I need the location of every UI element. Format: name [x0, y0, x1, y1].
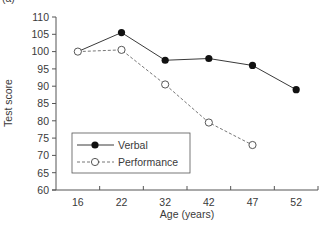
y-tick-label: 65: [37, 167, 49, 179]
data-point-performance: [118, 46, 125, 53]
y-tick-label: 105: [31, 28, 49, 40]
series-line-performance: [78, 50, 253, 145]
x-tick-label: 22: [116, 196, 128, 208]
y-tick-label: 70: [37, 149, 49, 161]
y-tick-label: 75: [37, 132, 49, 144]
data-point-verbal: [293, 86, 300, 93]
legend: Verbal Performance: [72, 133, 190, 173]
y-tick-label: 60: [37, 184, 49, 196]
legend-label-performance: Performance: [118, 156, 178, 168]
y-axis: 6065707580859095100105110: [31, 11, 56, 196]
x-axis-title: Age (years): [160, 208, 214, 220]
y-tick-label: 95: [37, 63, 49, 75]
panel-label: (a): [2, 0, 15, 4]
data-point-performance: [162, 81, 169, 88]
series-line-verbal: [78, 33, 296, 90]
x-axis: 162232424752: [52, 186, 318, 208]
data-point-verbal: [205, 55, 212, 62]
x-tick-label: 52: [290, 196, 302, 208]
y-axis-title: Test score: [2, 79, 14, 127]
data-point-performance: [74, 48, 81, 55]
y-tick-label: 110: [32, 11, 49, 23]
line-chart: (a) 6065707580859095100105110 1622324247…: [0, 0, 327, 237]
x-tick-label: 47: [247, 196, 259, 208]
series-layer: [74, 29, 300, 149]
data-point-performance: [249, 141, 256, 148]
x-tick-label: 16: [72, 196, 84, 208]
y-tick-label: 90: [37, 80, 49, 92]
y-tick-label: 100: [31, 45, 49, 57]
x-tick-label: 42: [203, 196, 215, 208]
open-circle-icon: [91, 158, 98, 165]
data-point-performance: [205, 119, 212, 126]
legend-label-verbal: Verbal: [118, 139, 148, 151]
x-tick-label: 32: [159, 196, 171, 208]
filled-circle-icon: [91, 141, 98, 148]
data-point-verbal: [249, 62, 256, 69]
data-point-verbal: [162, 57, 169, 64]
data-point-verbal: [118, 29, 125, 36]
y-tick-label: 85: [37, 97, 49, 109]
y-tick-label: 80: [37, 115, 49, 127]
